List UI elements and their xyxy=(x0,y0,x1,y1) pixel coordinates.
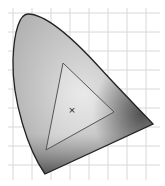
white-point-marker: × xyxy=(68,105,76,115)
cie-chromaticity-diagram: × xyxy=(0,0,165,186)
